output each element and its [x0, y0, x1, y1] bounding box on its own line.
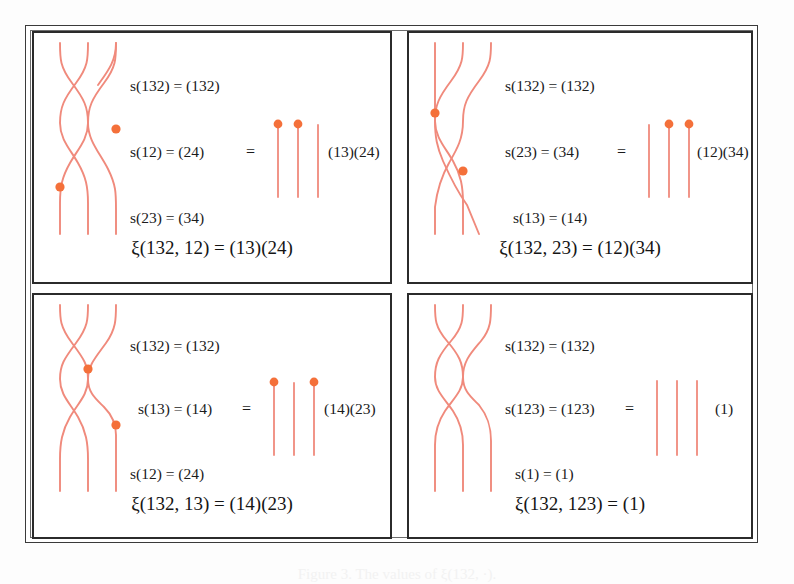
- result-dot: [274, 120, 283, 129]
- panel-2-result-cycle-text: (12)(34): [697, 143, 749, 160]
- panel-3: s(132) = (132) s(13) = (14) s(12) = (24)…: [32, 293, 392, 539]
- panel-1-line-3-text: s(23) = (34): [130, 209, 204, 226]
- panel-2-body: s(132) = (132) s(23) = (34) s(13) = (14)…: [409, 33, 751, 282]
- panel-3-result-cycle-text: (14)(23): [324, 400, 376, 417]
- panel-3-result-cycle: (14)(23): [324, 400, 376, 418]
- panel-1-caption: ξ(132, 12) = (13)(24): [34, 237, 390, 259]
- panel-4-line-2-text: s(123) = (123): [505, 400, 595, 417]
- panel-1-result-cycle-text: (13)(24): [328, 143, 380, 160]
- panel-4-caption-text: ξ(132, 123) = (1): [515, 493, 645, 514]
- panel-1-equals-text: =: [246, 143, 255, 160]
- panel-3-equals-text: =: [242, 400, 251, 417]
- panel-3-caption: ξ(132, 13) = (14)(23): [34, 493, 390, 515]
- braid-diagram-2: [423, 41, 543, 231]
- panel-2-line-3-text: s(13) = (14): [513, 209, 587, 226]
- panel-2-line-2-text: s(23) = (34): [505, 143, 579, 160]
- braid-dot: [111, 124, 120, 133]
- result-dot: [294, 120, 303, 129]
- panel-2-equals: =: [617, 143, 626, 161]
- braid-diagram-1: [48, 41, 168, 231]
- panel-2-result-cycle: (12)(34): [697, 143, 749, 161]
- result-strands-4: [649, 373, 739, 473]
- panel-4-equals: =: [625, 400, 634, 418]
- panel-3-line-2: s(13) = (14): [138, 400, 212, 418]
- figure-caption: Figure 3. The values of ξ(132, ·).: [0, 566, 794, 584]
- panel-1-line-3: s(23) = (34): [130, 209, 204, 227]
- panel-1-line-1: s(132) = (132): [130, 77, 220, 95]
- panel-1-line-2-text: s(12) = (24): [130, 143, 204, 160]
- panel-2-line-1: s(132) = (132): [505, 77, 595, 95]
- panel-1: s(132) = (132) s(12) = (24) s(23) = (34)…: [32, 31, 392, 284]
- panel-1-caption-text: ξ(132, 12) = (13)(24): [131, 237, 293, 258]
- result-dot: [310, 378, 319, 387]
- panel-2-caption: ξ(132, 23) = (12)(34): [409, 237, 751, 259]
- panel-4-line-1: s(132) = (132): [505, 337, 595, 355]
- panel-4-result-cycle-text: (1): [715, 400, 733, 417]
- figure-root: s(132) = (132) s(12) = (24) s(23) = (34)…: [0, 0, 794, 584]
- panel-2-equals-text: =: [617, 143, 626, 160]
- panel-2-caption-text: ξ(132, 23) = (12)(34): [499, 237, 661, 258]
- panel-4-result-cycle: (1): [715, 400, 733, 418]
- panel-2-line-1-text: s(132) = (132): [505, 77, 595, 94]
- panel-1-result-cycle: (13)(24): [328, 143, 380, 161]
- panel-3-line-1: s(132) = (132): [130, 337, 220, 355]
- panel-4-body: s(132) = (132) s(123) = (123) s(1) = (1)…: [409, 295, 751, 537]
- braid-dot: [430, 108, 439, 117]
- result-dot: [685, 120, 694, 129]
- result-dot: [270, 378, 279, 387]
- panel-1-equals: =: [246, 143, 255, 161]
- result-strands-2: [641, 115, 731, 215]
- result-dot: [665, 120, 674, 129]
- figure-caption-text: Figure 3. The values of ξ(132, ·).: [298, 566, 496, 582]
- braid-dot: [55, 182, 64, 191]
- panel-3-line-2-text: s(13) = (14): [138, 400, 212, 417]
- braid-dot: [83, 364, 92, 373]
- panel-2-line-2: s(23) = (34): [505, 143, 579, 161]
- panel-4: s(132) = (132) s(123) = (123) s(1) = (1)…: [407, 293, 753, 539]
- panel-3-line-1-text: s(132) = (132): [130, 337, 220, 354]
- braid-dot: [111, 420, 120, 429]
- panel-1-body: s(132) = (132) s(12) = (24) s(23) = (34)…: [34, 33, 390, 282]
- panel-3-line-3: s(12) = (24): [130, 465, 204, 483]
- panel-grid: s(132) = (132) s(12) = (24) s(23) = (34)…: [32, 31, 753, 539]
- result-strands-3: [266, 373, 356, 473]
- panel-4-caption: ξ(132, 123) = (1): [409, 493, 751, 515]
- panel-1-line-2: s(12) = (24): [130, 143, 204, 161]
- panel-4-line-3: s(1) = (1): [515, 465, 574, 483]
- panel-4-line-3-text: s(1) = (1): [515, 465, 574, 482]
- panel-4-line-2: s(123) = (123): [505, 400, 595, 418]
- panel-3-equals: =: [242, 400, 251, 418]
- panel-3-caption-text: ξ(132, 13) = (14)(23): [131, 493, 293, 514]
- panel-1-line-1-text: s(132) = (132): [130, 77, 220, 94]
- result-strands-1: [270, 115, 360, 215]
- braid-dot: [458, 166, 467, 175]
- panel-2-line-3: s(13) = (14): [513, 209, 587, 227]
- panel-3-line-3-text: s(12) = (24): [130, 465, 204, 482]
- panel-4-line-1-text: s(132) = (132): [505, 337, 595, 354]
- panel-2: s(132) = (132) s(23) = (34) s(13) = (14)…: [407, 31, 753, 284]
- panel-3-body: s(132) = (132) s(13) = (14) s(12) = (24)…: [34, 295, 390, 537]
- panel-4-equals-text: =: [625, 400, 634, 417]
